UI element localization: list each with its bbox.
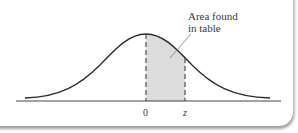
annotation-line-2: in table [188, 22, 221, 34]
normal-distribution-diagram: Area found in table 0 z [0, 0, 298, 133]
axis-label-zero: 0 [143, 107, 148, 118]
axis-label-z: z [182, 107, 187, 118]
annotation-line-1: Area found [188, 10, 238, 22]
shaded-area [146, 34, 185, 101]
